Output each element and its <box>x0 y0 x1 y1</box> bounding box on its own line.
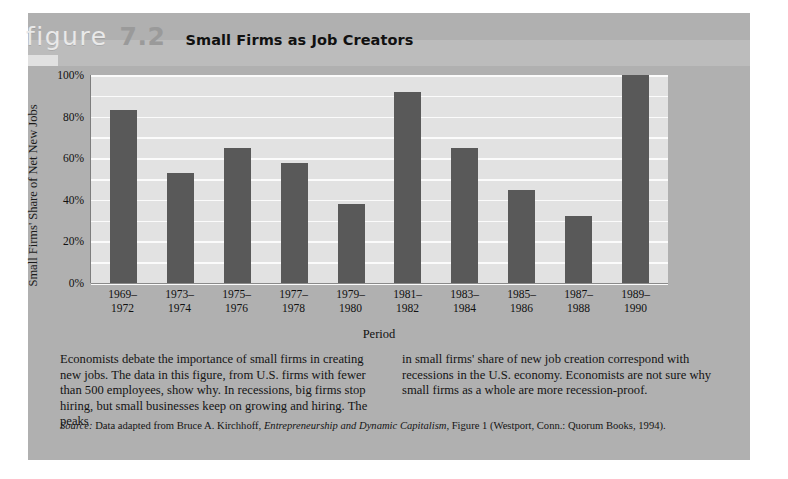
x-axis-tick-label: 1973–1974 <box>151 287 208 327</box>
page-canvas: figure 7.2 Small Firms as Job Creators S… <box>0 0 788 479</box>
bar-slot <box>266 75 323 283</box>
x-axis-line <box>91 283 668 285</box>
x-axis-tick-line: 1975– <box>208 287 265 301</box>
x-axis-label: Period <box>90 327 668 342</box>
x-axis-tick-line: 1987– <box>550 287 607 301</box>
x-axis-tick-line: 1989– <box>607 287 664 301</box>
bar[interactable] <box>394 92 421 283</box>
bar[interactable] <box>565 216 592 283</box>
x-axis-tick-line: 1984 <box>436 301 493 315</box>
x-axis-tick-label: 1985–1986 <box>493 287 550 327</box>
x-axis-tick-line: 1981– <box>379 287 436 301</box>
source-lead: Source: <box>60 420 93 431</box>
x-axis-ticks: 1969–19721973–19741975–19761977–19781979… <box>90 287 668 327</box>
x-axis-tick-line: 1988 <box>550 301 607 315</box>
bar[interactable] <box>451 148 478 283</box>
x-axis-tick-label: 1979–1980 <box>322 287 379 327</box>
bar[interactable] <box>508 190 535 283</box>
x-axis-tick-label: 1981–1982 <box>379 287 436 327</box>
y-axis-tick-label: 80% <box>63 111 84 123</box>
plot-area <box>90 75 668 283</box>
y-axis-label-text: Small Firms' Share of Net New Jobs <box>26 104 41 286</box>
figure-caption: Economists debate the importance of smal… <box>60 352 720 410</box>
x-axis-tick-line: 1982 <box>379 301 436 315</box>
bar-slot <box>380 75 437 283</box>
bar[interactable] <box>110 110 137 283</box>
bar-slot <box>323 75 380 283</box>
y-axis-ticks: 100%80%60%40%20%0% <box>44 75 88 290</box>
x-axis-tick-label: 1987–1988 <box>550 287 607 327</box>
x-axis-tick-line: 1990 <box>607 301 664 315</box>
x-axis-tick-line: 1972 <box>94 301 151 315</box>
y-axis-tick-label: 40% <box>63 194 84 206</box>
x-axis-tick-label: 1977–1978 <box>265 287 322 327</box>
y-axis-tick-label: 0% <box>69 277 84 289</box>
x-axis-tick-line: 1986 <box>493 301 550 315</box>
x-axis-tick-line: 1976 <box>208 301 265 315</box>
bar[interactable] <box>224 148 251 283</box>
y-axis-tick-label: 20% <box>63 235 84 247</box>
x-axis-tick-label: 1975–1976 <box>208 287 265 327</box>
bar-slot <box>607 75 664 283</box>
y-axis-tick-label: 60% <box>63 152 84 164</box>
x-axis-tick-line: 1978 <box>265 301 322 315</box>
bar-slot <box>209 75 266 283</box>
bar-series <box>91 75 668 283</box>
bar-slot <box>493 75 550 283</box>
bar[interactable] <box>281 163 308 283</box>
y-axis-tick-label: 100% <box>57 69 84 81</box>
figure-header: figure 7.2 Small Firms as Job Creators <box>26 22 686 56</box>
caption-column-right: in small firms' share of new job creatio… <box>402 352 720 410</box>
bar[interactable] <box>338 204 365 283</box>
figure-title: Small Firms as Job Creators <box>185 32 413 48</box>
bar-chart: Small Firms' Share of Net New Jobs 100%8… <box>26 55 696 345</box>
x-axis-tick-line: 1973– <box>151 287 208 301</box>
bar-slot <box>550 75 607 283</box>
y-axis-label: Small Firms' Share of Net New Jobs <box>24 85 42 305</box>
bar-slot <box>436 75 493 283</box>
caption-column-left: Economists debate the importance of smal… <box>60 352 378 410</box>
bar-slot <box>95 75 152 283</box>
bar-slot <box>152 75 209 283</box>
bar[interactable] <box>622 75 649 283</box>
x-axis-tick-line: 1979– <box>322 287 379 301</box>
figure-label: figure <box>26 22 108 51</box>
figure-number: 7.2 <box>120 22 166 51</box>
x-axis-tick-line: 1974 <box>151 301 208 315</box>
x-axis-tick-label: 1989–1990 <box>607 287 664 327</box>
source-text-after: , Figure 1 (Westport, Conn.: Quorum Book… <box>446 420 665 431</box>
x-axis-tick-line: 1969– <box>94 287 151 301</box>
source-italic-title: Entrepreneurship and Dynamic Capitalism <box>264 420 447 431</box>
x-axis-tick-line: 1983– <box>436 287 493 301</box>
source-note: Source: Data adapted from Bruce A. Kirch… <box>60 419 740 432</box>
x-axis-tick-line: 1977– <box>265 287 322 301</box>
x-axis-tick-line: 1985– <box>493 287 550 301</box>
source-text-before: Data adapted from Bruce A. Kirchhoff, <box>93 420 264 431</box>
x-axis-tick-label: 1983–1984 <box>436 287 493 327</box>
x-axis-tick-label: 1969–1972 <box>94 287 151 327</box>
bar[interactable] <box>167 173 194 283</box>
x-axis-tick-line: 1980 <box>322 301 379 315</box>
